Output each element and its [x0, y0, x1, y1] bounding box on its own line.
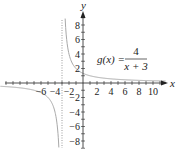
y-tick-label: −4: [69, 107, 80, 118]
y-tick-label: −6: [69, 121, 80, 132]
y-axis-label: y: [80, 0, 86, 11]
x-tick-label: 8: [137, 86, 142, 97]
y-tick-label: 8: [75, 20, 80, 31]
function-label: g(x) = 4 x + 3: [97, 45, 148, 72]
y-tick-label: −2: [69, 92, 80, 103]
y-tick-label: 4: [75, 49, 80, 60]
x-tick-label: 10: [148, 86, 158, 97]
y-axis-arrow-icon: [81, 11, 86, 18]
curve-right-branch: [65, 19, 165, 81]
x-tick-label: 2: [95, 86, 100, 97]
y-tick-label: 6: [75, 34, 80, 45]
formula-numerator: 4: [133, 45, 139, 57]
x-tick-label: −4: [50, 86, 61, 97]
y-tick-label: 2: [75, 63, 80, 74]
y-tick-label: −8: [69, 136, 80, 147]
x-tick-label: −6: [36, 86, 47, 97]
formula-denominator: x + 3: [123, 60, 148, 72]
x-axis-label: x: [169, 77, 175, 89]
x-tick-label: 4: [109, 86, 114, 97]
x-tick-label: 6: [123, 86, 128, 97]
chart: x −6−4−2246810 y 8642−2−4−6−8 g(x) = 4 x…: [0, 0, 183, 160]
formula-lhs: g(x) =: [97, 53, 125, 66]
